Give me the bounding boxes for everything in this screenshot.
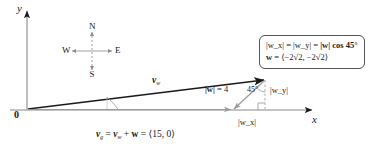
component-y-label: |w_y|: [270, 86, 288, 95]
origin-label: 0: [14, 110, 19, 120]
y-axis-label: y: [17, 3, 22, 14]
right-angle-marker: [258, 103, 265, 110]
equation-line2-rhs: ⟨−2√2, −2√2⟩: [281, 52, 328, 62]
angle-45-arc: [258, 89, 265, 92]
compass-west-label: W: [62, 46, 71, 55]
w-magnitude-prefix: |w|: [205, 84, 215, 94]
vector-vw: [28, 80, 264, 109]
bottom-eq-plus: +: [124, 129, 129, 139]
compass-east-label: E: [115, 46, 121, 55]
compass-north-label: N: [89, 22, 96, 31]
equation-box: |w_x| = |w_y| = |w| cos 45° w = ⟨−2√2, −…: [259, 35, 365, 69]
equation-line1-rhs: |w| cos 45°: [320, 40, 357, 50]
equals-2: =: [313, 40, 318, 50]
bottom-eq-lhs-sub: g: [100, 134, 103, 140]
bottom-eq-equals-1: =: [106, 129, 111, 139]
compass-rose: [72, 32, 112, 70]
bottom-eq-result: ⟨15, 0⟩: [149, 129, 175, 139]
equation-line1-lhs: |w_x|: [266, 40, 284, 50]
equation-box-line1: |w_x| = |w_y| = |w| cos 45°: [266, 39, 358, 51]
bottom-eq-equals-2: =: [141, 129, 146, 139]
w-magnitude-label: |w| = 4: [205, 85, 228, 94]
vector-vw-label: vw: [152, 76, 160, 87]
angle-45-label: 45°: [247, 86, 258, 94]
equals-1: =: [286, 40, 291, 50]
equation-line2-lhs: w: [266, 52, 272, 62]
bottom-eq-term1-sub: w: [117, 134, 121, 140]
component-x-label: |w_x|: [238, 118, 256, 127]
equation-box-line2: w = ⟨−2√2, −2√2⟩: [266, 51, 358, 63]
compass-south-label: S: [90, 70, 95, 79]
vector-vw-label-sub: w: [156, 80, 160, 86]
vector-diagram-figure: y x 0 N S E W vw |w| = 4 45° |w_y| |w_x|…: [0, 0, 383, 148]
w-magnitude-value: = 4: [217, 84, 228, 94]
bottom-equation: vg = vw + w = ⟨15, 0⟩: [96, 130, 175, 141]
equals-3: =: [274, 52, 279, 62]
diagram-canvas: [0, 0, 383, 148]
equation-line1-mid: |w_y|: [293, 40, 311, 50]
bottom-eq-term2: w: [132, 129, 139, 139]
x-axis-label: x: [312, 114, 317, 125]
